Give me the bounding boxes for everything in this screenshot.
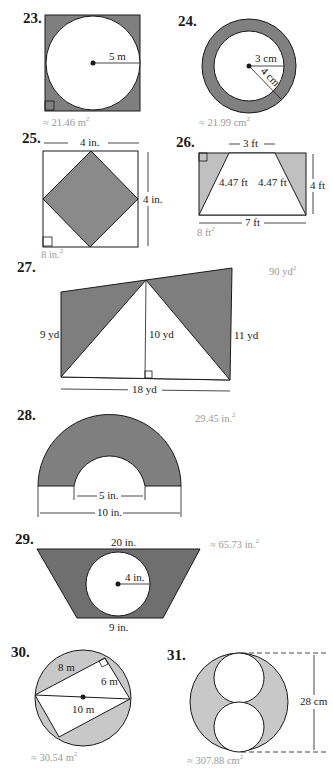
answer-29: ≈ 65.73 in.2 [210,537,259,550]
label-31-height: 28 cm [300,695,328,707]
label-29-radius: 4 in. [125,571,145,583]
answer-26: 8 ft2 [197,225,215,238]
label-29-bottom: 9 in. [109,621,129,633]
label-28-inner-diameter: 5 in. [99,489,119,501]
figure-27: 18 yd 9 yd 10 yd 11 yd [40,268,259,396]
answer-24: ≈ 21.99 cm2 [199,115,250,128]
figure-28: 5 in. 10 in. [38,415,181,520]
answer-28: 29.45 in.2 [195,411,236,424]
label-30-diameter: 10 m [72,703,95,715]
figure-24: 3 cm 4 cm [202,19,296,113]
label-27-base: 18 yd [132,383,157,395]
label-23-radius: 5 m [109,50,126,62]
label-26-top: 3 ft [243,137,258,149]
label-29-top: 20 in. [111,536,136,548]
label-25-height: 4 in. [143,193,163,205]
label-24-inner-radius: 3 cm [255,52,277,64]
label-28-outer-diameter: 10 in. [97,506,122,518]
figure-26: 3 ft 4.47 ft 4.47 ft 4 ft 7 ft [199,137,325,229]
figure-31: 28 cm [190,653,332,752]
label-30-side-a: 8 m [58,661,75,673]
answer-31: ≈ 307.88 cm2 [187,753,243,766]
figure-30: 8 m 6 m 10 m [35,650,131,746]
answer-27: 90 yd2 [269,264,296,277]
figure-25: 4 in. 4 in. [43,136,163,247]
label-30-side-b: 6 m [101,675,118,687]
answer-30: ≈ 30.54 m2 [31,750,77,763]
label-26-height: 4 ft [310,179,325,191]
label-26-left-slant: 4.47 ft [219,176,248,188]
label-27-right: 11 yd [234,329,259,341]
label-26-bottom: 7 ft [245,216,260,228]
answer-25: 8 in.2 [41,247,63,260]
label-26-right-slant: 4.47 ft [258,176,287,188]
label-27-left: 9 yd [40,328,60,340]
answer-23: ≈ 21.46 m2 [43,115,89,128]
figure-29: 20 in. 4 in. 9 in. [37,536,200,633]
figure-23: 5 m [45,15,140,111]
label-25-width: 4 in. [80,136,100,148]
label-27-middle: 10 yd [149,328,174,340]
